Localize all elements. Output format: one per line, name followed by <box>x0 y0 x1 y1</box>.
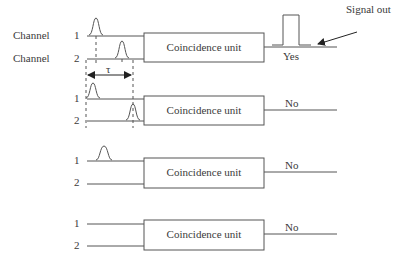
channel-2-number: 2 <box>74 115 80 126</box>
channel-1-number: 1 <box>74 155 80 166</box>
channel-1-number: 1 <box>74 93 80 104</box>
signal-out-arrow <box>318 32 357 44</box>
coincidence-unit-label: Coincidence unit <box>144 42 264 53</box>
tau-label: τ <box>106 64 110 75</box>
channel-label: Channel <box>13 30 50 41</box>
result-label: No <box>285 160 298 171</box>
output-pulse <box>272 15 311 45</box>
result-label: Yes <box>283 51 299 62</box>
channel-1-number: 1 <box>74 218 80 229</box>
channel-label: Channel <box>13 53 50 64</box>
channel-1-pulse <box>96 146 112 160</box>
result-label: No <box>285 98 298 109</box>
channel-2-pulse <box>115 41 129 58</box>
channel-2-number: 2 <box>74 53 80 64</box>
channel-2-pulse <box>126 104 140 120</box>
result-label: No <box>285 222 298 233</box>
signal-out-label: Signal out <box>346 4 391 15</box>
channel-2-number: 2 <box>74 177 80 188</box>
channel-2-number: 2 <box>74 240 80 251</box>
coincidence-unit-label: Coincidence unit <box>144 105 264 116</box>
channel-1-pulse <box>86 83 100 98</box>
coincidence-unit-label: Coincidence unit <box>144 229 264 240</box>
channel-1-number: 1 <box>74 30 80 41</box>
coincidence-diagram <box>0 0 402 264</box>
channel-1-pulse <box>89 18 103 35</box>
coincidence-unit-label: Coincidence unit <box>144 167 264 178</box>
